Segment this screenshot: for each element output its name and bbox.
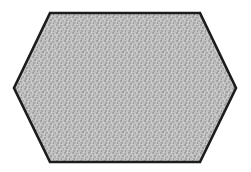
figure-canvas: elongated-hexagon bbox=[0, 0, 251, 172]
hexagon-figure-svg bbox=[0, 0, 251, 172]
